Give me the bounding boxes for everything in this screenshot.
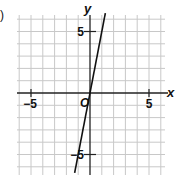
part-label: ) <box>0 8 4 22</box>
coordinate-plane: ) x y O −5 5 5 −5 <box>0 0 177 186</box>
x-axis-label: x <box>166 85 175 100</box>
x-tick-label-5: 5 <box>146 97 153 111</box>
y-tick-label-5: 5 <box>77 25 84 39</box>
y-axis-label: y <box>83 1 92 16</box>
y-tick-label-neg5: −5 <box>70 148 84 162</box>
axes <box>17 15 168 175</box>
x-tick-label-neg5: −5 <box>23 97 37 111</box>
grid-lines <box>17 15 165 175</box>
origin-label: O <box>80 96 90 110</box>
